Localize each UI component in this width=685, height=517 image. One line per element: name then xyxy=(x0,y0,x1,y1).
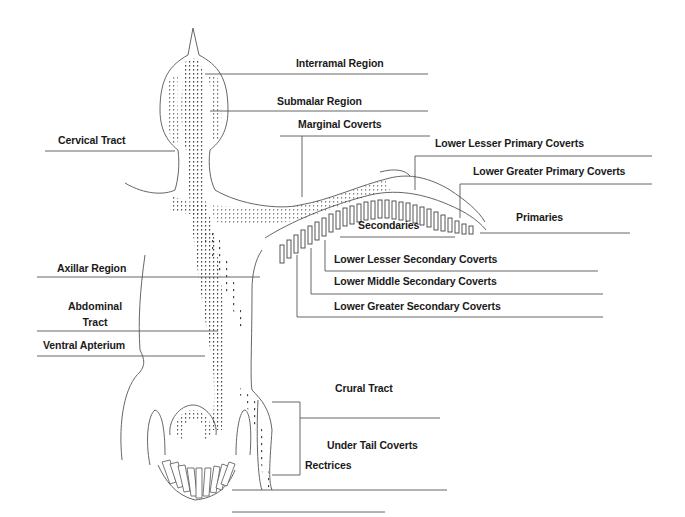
label-crural-tract: Crural Tract xyxy=(335,382,393,394)
label-cervical-tract: Cervical Tract xyxy=(58,134,125,146)
label-submalar-region: Submalar Region xyxy=(277,95,362,107)
label-interramal-region: Interramal Region xyxy=(296,57,384,69)
label-rectrices: Rectrices xyxy=(305,459,351,471)
label-secondaries: Secondaries xyxy=(358,219,419,231)
label-ventral-apterium: Ventral Apterium xyxy=(43,339,125,351)
label-lower-greater-primary-coverts: Lower Greater Primary Coverts xyxy=(473,165,625,177)
label-lower-greater-secondary-coverts: Lower Greater Secondary Coverts xyxy=(334,300,501,312)
label-abdominal-tract-line1: Abdominal xyxy=(55,298,135,314)
feather-tract-diagram: Interramal Region Submalar Region Margin… xyxy=(0,0,685,517)
rectrices-drawing xyxy=(162,460,235,498)
label-abdominal-tract: Abdominal Tract xyxy=(55,298,135,330)
label-lower-lesser-primary-coverts: Lower Lesser Primary Coverts xyxy=(435,137,584,149)
label-lower-middle-secondary-coverts: Lower Middle Secondary Coverts xyxy=(334,275,497,287)
label-lower-lesser-secondary-coverts: Lower Lesser Secondary Coverts xyxy=(334,253,497,265)
label-under-tail-coverts: Under Tail Coverts xyxy=(327,439,418,451)
label-axillar-region: Axillar Region xyxy=(57,262,126,274)
label-primaries: Primaries xyxy=(516,211,563,223)
label-marginal-coverts: Marginal Coverts xyxy=(298,118,382,130)
label-abdominal-tract-line2: Tract xyxy=(55,314,135,330)
